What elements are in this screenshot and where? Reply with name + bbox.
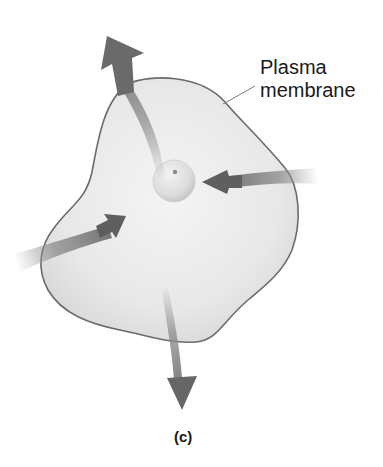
plasma-membrane-label-line2: membrane bbox=[260, 79, 356, 102]
plasma-membrane-label: Plasma membrane bbox=[260, 56, 356, 102]
panel-label: (c) bbox=[174, 428, 192, 445]
plasma-membrane-label-line1: Plasma bbox=[260, 56, 356, 79]
membrane-callout-line bbox=[223, 86, 255, 104]
nucleolus bbox=[173, 170, 177, 174]
